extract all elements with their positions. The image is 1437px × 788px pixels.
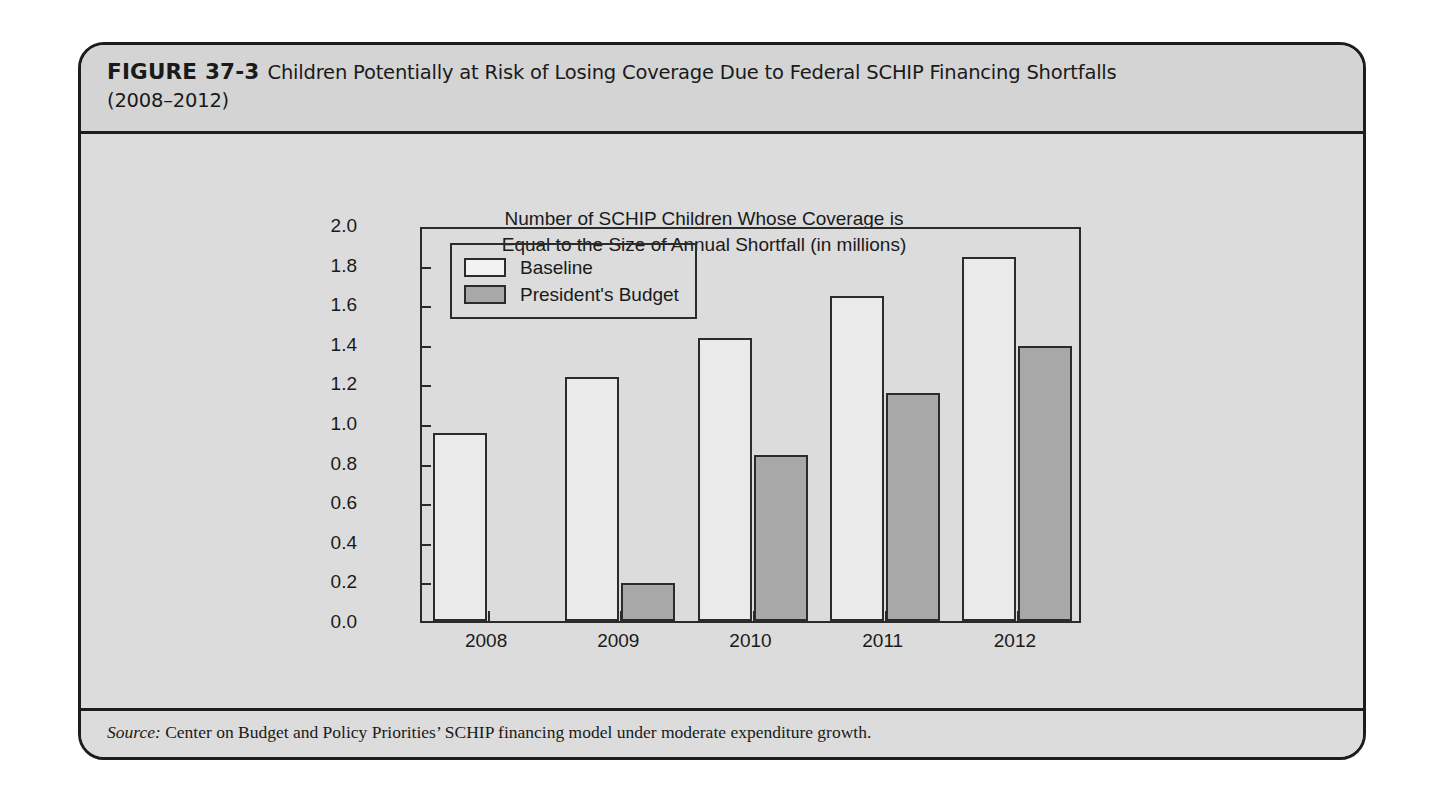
y-axis-tick-label: 1.8 (287, 255, 357, 277)
figure-source-band: Source: Center on Budget and Policy Prio… (81, 711, 1363, 757)
x-axis-tick-label-2009: 2009 (553, 630, 683, 652)
y-axis-tick-label: 0.8 (287, 453, 357, 475)
bar-2012-presidents-budget (1018, 346, 1072, 621)
plot-area: Baseline President's Budget (420, 227, 1081, 623)
y-axis-tick-label: 1.2 (287, 373, 357, 395)
y-axis-tick-label: 1.0 (287, 413, 357, 435)
legend-item-baseline: Baseline (464, 254, 679, 281)
legend-swatch-baseline-icon (464, 258, 506, 277)
bar-2012-baseline (962, 257, 1016, 621)
chart-legend: Baseline President's Budget (450, 243, 697, 319)
figure-source-text: Source: Center on Budget and Policy Prio… (107, 722, 1363, 743)
figure-title-line-1: FIGURE 37-3Children Potentially at Risk … (107, 58, 1339, 87)
bar-2010-presidents-budget (754, 455, 808, 621)
chart-canvas: Number of SCHIP Children Whose Coverage … (81, 134, 1363, 711)
x-axis-tick-mark (885, 611, 887, 621)
figure-header: FIGURE 37-3Children Potentially at Risk … (81, 45, 1363, 134)
bar-2011-presidents-budget (886, 393, 940, 621)
x-axis-tick-mark (1017, 611, 1019, 621)
legend-label-presidents-budget: President's Budget (520, 284, 679, 306)
bar-2008-baseline (433, 433, 487, 621)
y-axis-tick-label: 0.0 (287, 611, 357, 633)
figure-title-line-2: (2008–2012) (107, 87, 1339, 115)
bar-2009-baseline (565, 377, 619, 621)
x-axis-tick-label-2008: 2008 (421, 630, 551, 652)
x-axis-tick-mark (753, 611, 755, 621)
x-axis-tick-label-2011: 2011 (818, 630, 948, 652)
y-axis-tick-label: 0.4 (287, 532, 357, 554)
figure-title-text: Children Potentially at Risk of Losing C… (268, 61, 1117, 84)
y-axis-tick-label: 0.6 (287, 492, 357, 514)
legend-swatch-presidents-budget-icon (464, 285, 506, 304)
y-axis-tick-label: 2.0 (287, 215, 357, 237)
figure-number: FIGURE 37-3 (107, 59, 260, 84)
x-axis-tick-mark (620, 611, 622, 621)
y-axis-tick-label: 1.4 (287, 334, 357, 356)
bar-2010-baseline (698, 338, 752, 621)
legend-item-presidents-budget: President's Budget (464, 281, 679, 308)
x-axis-tick-label-2010: 2010 (686, 630, 816, 652)
chart-body: Number of SCHIP Children Whose Coverage … (81, 134, 1363, 711)
source-detail: Center on Budget and Policy Priorities’ … (161, 722, 872, 742)
y-axis-tick-label: 0.2 (287, 571, 357, 593)
source-label: Source: (107, 722, 161, 742)
x-axis-tick-label-2012: 2012 (950, 630, 1080, 652)
bar-2011-baseline (830, 296, 884, 621)
y-axis-tick-label: 1.6 (287, 294, 357, 316)
bar-2009-presidents-budget (621, 583, 675, 621)
x-axis-tick-mark (488, 611, 490, 621)
figure-container: FIGURE 37-3Children Potentially at Risk … (78, 42, 1366, 760)
legend-label-baseline: Baseline (520, 257, 593, 279)
